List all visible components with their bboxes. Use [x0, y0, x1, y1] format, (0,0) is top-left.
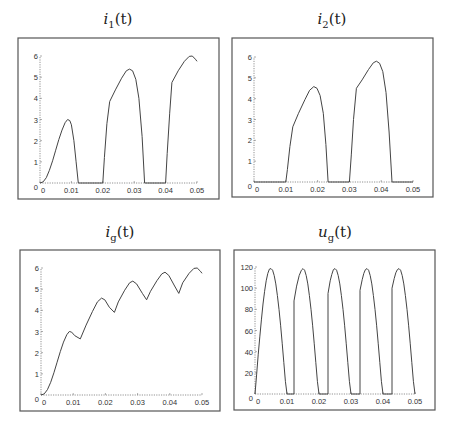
y-tick-label: 6 [34, 52, 38, 61]
x-tick-label: 0.03 [130, 398, 145, 407]
y-tick-label: 0 [249, 394, 253, 403]
series-line-i2 [254, 61, 413, 182]
y-tick-label: 5 [34, 73, 38, 82]
x-tick-label: 0.05 [408, 397, 423, 406]
y-tick-label: 80 [245, 305, 253, 314]
y-tick-label: 2 [248, 136, 252, 145]
x-tick-label: 0.02 [98, 398, 113, 407]
y-tick-label: 60 [245, 327, 253, 336]
y-tick-label: 2 [34, 137, 38, 146]
y-tick-label: 0 [248, 182, 252, 191]
chart-frame [20, 250, 220, 411]
chart-i1: 00.010.020.030.040.050123456 [18, 38, 219, 199]
x-tick-label: 0.03 [344, 397, 359, 406]
y-tick-label: 4 [248, 95, 252, 104]
y-tick-label: 20 [245, 369, 253, 378]
y-tick-label: 1 [35, 370, 39, 379]
plot-canvas: 00.010.020.030.040.05012345600.010.020.0… [0, 0, 450, 421]
chart-frame [232, 38, 433, 197]
y-tick-label: 4 [35, 306, 39, 315]
x-tick-label: 0.02 [312, 397, 327, 406]
x-tick-label: 0.03 [342, 185, 357, 194]
x-tick-label: 0 [41, 186, 45, 195]
y-tick-label: 0 [35, 395, 39, 404]
chart-frame [234, 250, 435, 410]
y-tick-label: 5 [248, 74, 252, 83]
x-tick-label: 0.04 [376, 397, 391, 406]
series-line-i1 [40, 56, 197, 183]
x-tick-label: 0.05 [190, 186, 205, 195]
x-tick-label: 0.01 [280, 397, 295, 406]
y-tick-label: 100 [240, 284, 253, 293]
x-tick-label: 0 [255, 185, 259, 194]
x-tick-label: 0.03 [127, 186, 142, 195]
chart-i2: 00.010.020.030.040.050123456 [232, 38, 433, 197]
series-line-ug [255, 269, 415, 394]
x-tick-label: 0.01 [64, 186, 79, 195]
y-tick-label: 5 [35, 285, 39, 294]
x-tick-label: 0.04 [158, 186, 173, 195]
y-tick-label: 3 [248, 116, 252, 125]
x-tick-label: 0 [256, 397, 260, 406]
y-tick-label: 6 [248, 53, 252, 62]
chart-frame [18, 38, 219, 199]
chart-ug: 00.010.020.030.040.05020406080100120 [234, 250, 435, 410]
y-tick-label: 3 [34, 116, 38, 125]
y-tick-label: 3 [35, 328, 39, 337]
x-tick-label: 0.05 [195, 398, 210, 407]
x-tick-label: 0.01 [278, 185, 293, 194]
y-tick-label: 4 [34, 94, 38, 103]
x-tick-label: 0.01 [66, 398, 81, 407]
x-tick-label: 0 [42, 398, 46, 407]
y-tick-label: 2 [35, 349, 39, 358]
x-tick-label: 0.04 [162, 398, 177, 407]
x-tick-label: 0.02 [310, 185, 325, 194]
y-tick-label: 6 [35, 264, 39, 273]
y-tick-label: 1 [248, 157, 252, 166]
y-tick-label: 1 [34, 158, 38, 167]
chart-ig: 00.010.020.030.040.050123456 [20, 250, 220, 411]
y-tick-label: 120 [240, 263, 253, 272]
series-line-ig [41, 268, 202, 395]
x-tick-label: 0.05 [406, 185, 421, 194]
y-tick-label: 40 [245, 348, 253, 357]
x-tick-label: 0.02 [95, 186, 110, 195]
x-tick-label: 0.04 [374, 185, 389, 194]
y-tick-label: 0 [34, 183, 38, 192]
